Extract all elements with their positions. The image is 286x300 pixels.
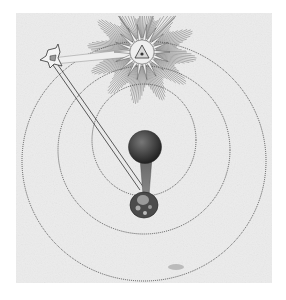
ink-smudge — [168, 264, 184, 270]
earth — [130, 192, 158, 218]
engraving — [0, 0, 286, 300]
eye-icon — [140, 52, 143, 55]
moon-sphere — [129, 131, 162, 164]
